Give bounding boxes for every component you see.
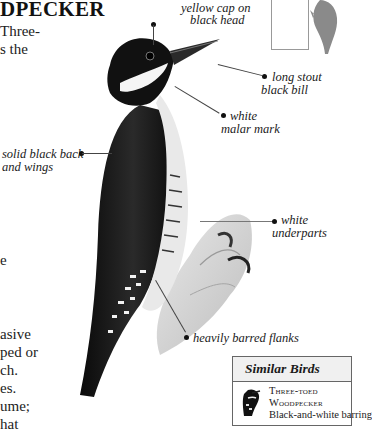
body-text-fragment: ped or [0, 343, 38, 361]
woodpecker-silhouette-icon [310, 0, 339, 56]
pointer-line [82, 153, 112, 154]
pointer-dot [272, 219, 277, 224]
body-text-fragment: es. [0, 379, 16, 397]
pointer-dot [262, 74, 267, 79]
similar-bird-name-line1: Three-toed [269, 385, 318, 397]
body-text-fragment: asive [0, 325, 31, 343]
pointer-dot [221, 113, 226, 118]
label-cap-line2: black head [190, 14, 245, 27]
similar-bird-name-line2: Woodpecker [269, 397, 323, 409]
similar-birds-header: Similar Birds [233, 357, 351, 382]
label-underparts-line2: underparts [272, 227, 327, 240]
label-malar-line2: malar mark [221, 123, 280, 136]
label-bill-line2: black bill [261, 84, 308, 97]
page-title: DPECKER [0, 0, 105, 22]
body-text-fragment: e [0, 251, 7, 269]
body-text-fragment: ch. [0, 361, 18, 379]
pointer-line [200, 221, 273, 222]
similar-bird-description: Black-and-white barring [269, 409, 372, 421]
three-toed-woodpecker-thumbnail-icon [240, 388, 262, 416]
body-text-fragment: ume; [0, 397, 30, 415]
pointer-line [153, 25, 154, 45]
body-text-fragment: hat [0, 415, 18, 433]
label-flanks: heavily barred flanks [193, 332, 299, 345]
pointer-dot [184, 335, 189, 340]
range-map-box [271, 0, 309, 50]
body-text-fragment: Three- [0, 22, 40, 40]
label-back-line2: and wings [2, 161, 53, 174]
body-text-fragment: s the [0, 40, 28, 58]
